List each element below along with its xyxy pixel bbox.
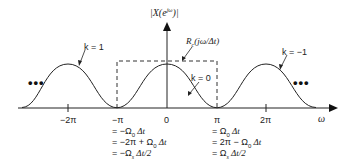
neg-pi-eq-2-end: Δt (157, 137, 167, 147)
neg-pi-eq-1-text: = −Ω (112, 126, 132, 136)
box-label: Rc(jω/Δt) (186, 36, 219, 50)
pos-pi-eq-3-text: = Ω (212, 148, 226, 158)
neg-pi-eq-2-text: = −2π + Ω (112, 137, 153, 147)
omega-axis-arrow-icon (329, 104, 338, 112)
pos-pi-eq-3-end: Δt/2 (229, 148, 246, 158)
pos-pi-eq-1-end: Δt (230, 126, 240, 136)
spectrum-curve (22, 64, 316, 108)
pos-pi-eq-2-text: = 2π − Ω (212, 137, 248, 147)
km1-label: k = −1 (282, 47, 307, 57)
neg-pi-eq-1-end: Δt (135, 126, 145, 136)
tick-label-minus-pi: −π (112, 115, 123, 125)
ellipsis-left: ••• (28, 78, 45, 88)
neg-pi-eq-3: = −Ωs Δt/2 (112, 148, 151, 162)
k1-label: k = 1 (84, 42, 104, 52)
y-axis-label: |X(ejω)| (150, 5, 179, 18)
tick-label-minus-2pi: −2π (60, 115, 76, 125)
neg-pi-eq-3-end: Δt/2 (134, 148, 151, 158)
omega-label: ω (318, 114, 325, 124)
tick-label-pi: π (214, 115, 220, 125)
y-label-end: )| (173, 7, 179, 18)
pos-pi-eq-2-end: Δt (251, 137, 261, 147)
pos-pi-eq-3: = Ωs Δt/2 (212, 148, 246, 162)
ellipsis-right: ••• (293, 78, 310, 88)
pos-pi-eq-1-text: = Ω (212, 126, 226, 136)
y-label-main: |X(e (150, 7, 167, 18)
k1-arrow-icon (78, 60, 82, 66)
neg-pi-eq-3-text: = −Ω (112, 148, 132, 158)
tick-label-zero: 0 (164, 115, 169, 125)
tick-label-2pi: 2π (260, 115, 271, 125)
magnitude-axis-arrow-icon (163, 22, 171, 31)
box-label-arg: (jω/Δt) (194, 36, 219, 46)
k0-label: k = 0 (191, 73, 211, 83)
